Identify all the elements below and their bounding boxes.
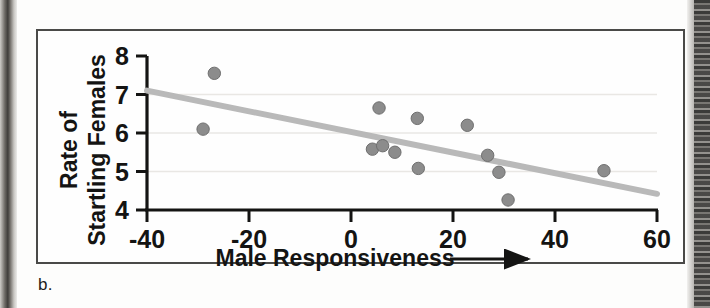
- data-point: [389, 146, 401, 158]
- data-point: [493, 166, 505, 178]
- trend-line: [147, 91, 657, 194]
- x-axis-title: Male Responsiveness: [215, 245, 528, 271]
- data-point: [598, 165, 610, 177]
- y-axis-tick-label: 7: [115, 81, 129, 109]
- x-axis-tick-label: 60: [643, 225, 671, 253]
- scan-page-seam: [687, 0, 694, 308]
- x-axis-tick-label: 40: [541, 225, 569, 253]
- panel-label: b.: [38, 275, 53, 295]
- data-point: [412, 162, 424, 174]
- x-axis-ticks: [147, 210, 657, 222]
- data-point: [197, 123, 209, 135]
- scan-edge-artifact: [694, 0, 710, 308]
- y-axis-tick-label: 6: [115, 119, 129, 147]
- x-axis-title-text: Male Responsiveness: [215, 245, 454, 271]
- data-point: [376, 140, 388, 152]
- y-axis-title-line1: Rate of: [56, 111, 82, 189]
- y-axis-ticks: [136, 56, 147, 210]
- data-points: [197, 67, 610, 206]
- y-axis-tick-label: 5: [115, 158, 129, 186]
- trend-line-segment: [147, 91, 657, 194]
- data-point: [461, 119, 473, 131]
- y-axis-tick-labels: 45678: [115, 42, 129, 224]
- data-point: [373, 102, 385, 114]
- data-point: [411, 112, 423, 124]
- y-axis-tick-label: 8: [115, 42, 129, 70]
- scatter-plot: 45678 -40-200204060 Rate of Startling Fe…: [0, 0, 710, 308]
- y-axis-title: Rate of Startling Females: [56, 54, 110, 246]
- y-axis-tick-label: 4: [115, 196, 129, 224]
- x-axis-tick-label: -40: [129, 225, 165, 253]
- y-axis-title-line2: Startling Females: [84, 54, 110, 246]
- data-point: [481, 149, 493, 161]
- data-point: [208, 67, 220, 79]
- data-point: [502, 194, 514, 206]
